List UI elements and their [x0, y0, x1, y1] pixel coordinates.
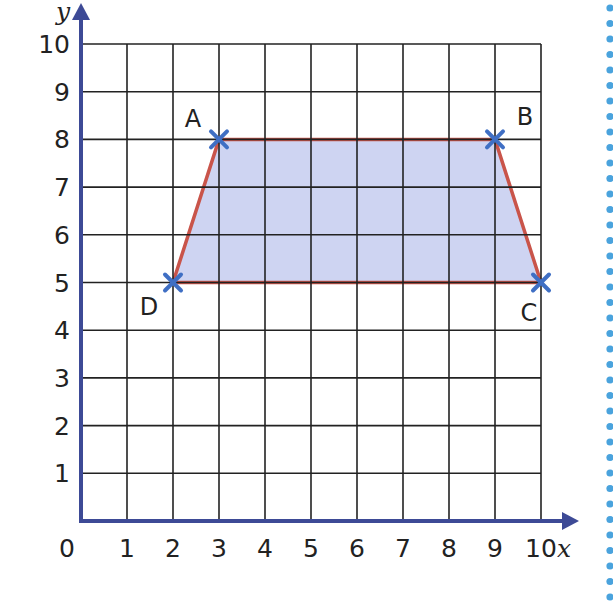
border-dot — [606, 82, 613, 89]
y-tick-label: 7 — [54, 173, 70, 202]
border-dot — [606, 299, 613, 306]
y-tick-label: 1 — [54, 459, 70, 488]
border-dot — [606, 35, 613, 42]
border-dot — [606, 469, 613, 476]
y-tick-label: 10 — [38, 30, 70, 59]
point-label: A — [185, 105, 202, 133]
border-dot — [606, 113, 613, 120]
border-dot — [606, 221, 613, 228]
border-dot — [606, 423, 613, 430]
y-axis-arrow-icon — [72, 3, 90, 20]
coordinate-grid-chart: 01234567891012345678910xy ABCD — [0, 0, 613, 607]
border-dot — [606, 190, 613, 197]
y-tick-label: 5 — [54, 269, 70, 298]
border-dot — [606, 159, 613, 166]
border-dot — [606, 361, 613, 368]
border-dot — [606, 4, 613, 11]
border-dot — [606, 268, 613, 275]
border-dot — [606, 330, 613, 337]
x-axis-title: x — [557, 534, 571, 563]
point-d: D — [140, 275, 181, 321]
y-tick-label: 3 — [54, 364, 70, 393]
x-tick-label: 2 — [165, 534, 181, 563]
border-dot — [606, 206, 613, 213]
border-dot — [606, 345, 613, 352]
border-dot — [606, 283, 613, 290]
point-label: C — [521, 299, 538, 327]
border-dot — [606, 500, 613, 507]
border-dot — [606, 547, 613, 554]
x-tick-label: 3 — [211, 534, 227, 563]
x-tick-label: 7 — [395, 534, 411, 563]
border-dot — [606, 516, 613, 523]
y-tick-label: 8 — [54, 125, 70, 154]
point-b: B — [487, 103, 533, 147]
x-tick-label: 8 — [441, 534, 457, 563]
border-dot — [606, 237, 613, 244]
border-dot — [606, 593, 613, 600]
point-label: D — [140, 293, 158, 321]
border-dot — [606, 578, 613, 585]
border-dot — [606, 252, 613, 259]
border-dot — [606, 392, 613, 399]
border-dot — [606, 128, 613, 135]
border-dot — [606, 454, 613, 461]
x-tick-label: 10 — [525, 534, 557, 563]
point-label: B — [517, 103, 533, 131]
x-tick-label: 4 — [257, 534, 273, 563]
border-dot — [606, 438, 613, 445]
border-dot — [606, 562, 613, 569]
border-dot — [606, 97, 613, 104]
y-tick-label: 9 — [54, 78, 70, 107]
border-dot — [606, 175, 613, 182]
grid-lines — [81, 44, 541, 521]
y-tick-label: 4 — [54, 316, 70, 345]
x-tick-label: 1 — [119, 534, 135, 563]
y-tick-label: 2 — [54, 412, 70, 441]
x-axis-arrow-icon — [562, 512, 579, 530]
border-dot — [606, 51, 613, 58]
border-dot — [606, 144, 613, 151]
border-dot — [606, 376, 613, 383]
dotted-border — [606, 4, 613, 600]
point-a: A — [185, 105, 227, 147]
y-axis-title: y — [55, 0, 71, 26]
border-dot — [606, 314, 613, 321]
border-dot — [606, 485, 613, 492]
x-tick-label: 6 — [349, 534, 365, 563]
border-dot — [606, 407, 613, 414]
border-dot — [606, 66, 613, 73]
x-tick-label: 5 — [303, 534, 319, 563]
border-dot — [606, 20, 613, 27]
border-dot — [606, 531, 613, 538]
y-tick-label: 6 — [54, 221, 70, 250]
x-tick-label: 9 — [487, 534, 503, 563]
x-tick-label: 0 — [59, 534, 75, 563]
